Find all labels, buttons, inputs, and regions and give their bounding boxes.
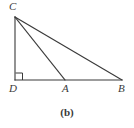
segment-CA [15,17,65,80]
geometry-figure: C D A B (b) [0,0,134,128]
vertex-label-c: C [9,1,16,12]
vertex-label-d: D [9,83,17,94]
segment-CB [15,17,122,80]
vertex-label-b: B [118,83,125,94]
vertex-label-a: A [62,83,69,94]
right-angle-marker-icon [16,73,23,80]
figure-caption: (b) [0,106,134,118]
